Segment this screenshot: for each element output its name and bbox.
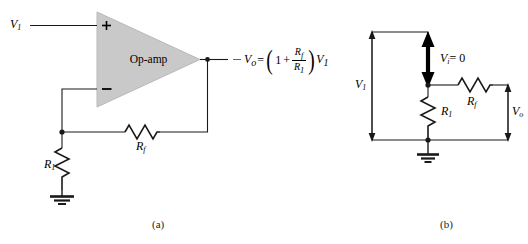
equation-one: 1 [274,53,282,68]
label-rf-a: Rf [136,140,146,154]
caption-a: (a) [152,218,164,230]
label-v1-input-a: V1 [10,18,21,32]
label-vi-zero: Vi= 0 [440,52,465,66]
equation-paren-open: ( [266,50,272,72]
resistor-rf-a [125,125,160,139]
vo-measure-arrow [505,83,512,142]
equation-plus: + [282,53,291,68]
equation-fraction: Rf R1 [292,46,306,75]
v1-measure-arrow [369,30,376,142]
resistor-r1-a [55,148,69,190]
figure-container: Op-amp [0,0,528,244]
ground-icon-a [50,190,74,204]
wire-minus-to-node [62,89,97,132]
label-rf-b: Rf [467,95,477,109]
label-vo-b: Vo [512,105,523,119]
opamp-body-label: Op-amp [130,53,168,66]
caption-b: (b) [440,218,453,230]
equation-paren-close: ) [308,50,314,72]
resistor-r1-b [421,97,435,140]
label-r1-b: R1 [441,105,452,119]
label-r1-a: R1 [44,158,55,172]
ground-icon-b [417,140,439,162]
equation-equals: = [256,53,265,68]
output-equation: Vo = ( 1 + Rf R1 ) V1 [244,46,329,75]
circuit-svg: Op-amp [0,0,528,244]
label-v1-b: V1 [355,78,366,92]
resistor-rf-b [458,78,493,92]
vi-double-arrow [422,31,435,88]
